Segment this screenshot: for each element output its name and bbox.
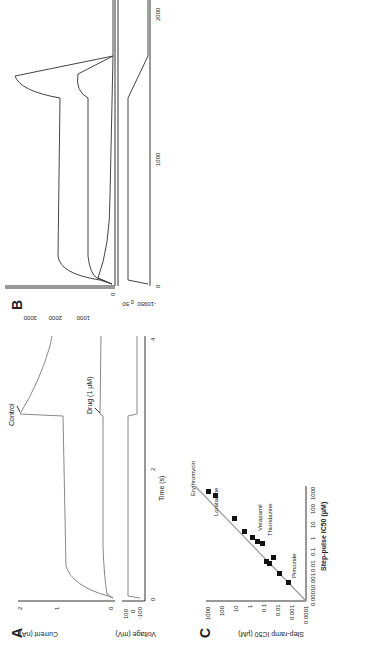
data-point [286,580,291,585]
annotation-loratadine: Loratadine [213,487,219,516]
annotation-control: Control [8,403,15,426]
panel-a-voltage-label: Voltage (mV) [116,630,156,638]
panel-a-xtick-0: 0 [150,597,156,601]
panel-c-ytick: 1 [247,604,253,608]
annotation-pimozide: Pimozide [291,553,297,578]
data-point [255,539,260,544]
data-point [250,535,255,540]
panel-b-trace-3 [98,56,113,284]
annotation-verapamil: Verapamil [257,504,263,531]
panel-b-xtick-0: 0 [155,284,161,288]
panel-b-tick-0: 0 [110,292,116,296]
panel-c-ytick: 0.001 [289,604,295,620]
panel-c-ytick: 10 [233,605,239,612]
panel-c-ylabel: Step-ramp IC50 (μM) [238,630,304,638]
panel-c-xtick: 1000 [310,486,316,500]
panel-c-ytick: 0.0001 [303,605,309,624]
panel-a-tick-1: 1 [54,606,60,610]
panel-a-voltage-trace [128,336,140,598]
arrow-control [17,406,20,412]
panel-c-ytick: 100 [219,605,225,616]
panel-b-tick-3000: 3000 [23,315,37,321]
panel-a-vtick-100: 100 [123,608,129,619]
annotation-thioridazine: Thioridazine [267,503,273,536]
data-point [242,529,247,534]
panel-b-xtick-1000: 1000 [155,152,161,166]
panel-a-xtick-4: 4 [150,337,156,341]
panel-a-xlabel: Time (s) [158,476,166,501]
panel-c-xtick: 0.01 [310,560,316,572]
panel-b-vtick-m100: -100 [143,301,156,307]
panel-a-control-trace [20,336,113,598]
panel-c-ytick: 0.01 [275,604,281,616]
panel-a-drug-trace [100,336,113,598]
data-point [260,541,265,546]
data-point [264,559,269,564]
figure: A Current (nA) 2 1 0 Control Drug (1 μM)… [0,0,380,646]
panel-c-ytick: 0.1 [261,603,267,612]
panel-c-xlabel: Step-pulse IC50 (μM) [320,502,328,571]
panel-b-trace-2 [77,56,113,284]
panel-b-vtick-0: 0 [130,299,134,305]
panel-b-trace-1 [15,0,113,284]
panel-b-xtick-2000: 2000 [155,7,161,21]
panel-c-ytick: 1000 [205,606,211,620]
panel-a-vtick-0: 0 [130,609,136,613]
panel-c-label: C [197,628,213,638]
panel-a-vtick-m100: -100 [137,606,143,619]
panel-c-xtick: 0.001 [310,572,316,588]
panel-b-voltage-trace [128,0,148,284]
panel-a-tick-2: 2 [17,606,23,610]
panel-c-xtick: 10 [310,521,316,528]
data-point [271,555,276,560]
data-point [277,571,282,576]
panel-b-tick-1000: 1000 [76,315,90,321]
panel-c-xtick: 0.1 [310,547,316,556]
data-point [232,516,237,521]
annotation-drug: Drug (1 μM) [86,377,94,414]
panel-a-current-label: Current (nA) [19,630,58,638]
panel-b-label: B [9,300,25,310]
panel-a-xtick-2: 2 [150,467,156,471]
panel-c-xtick: 100 [310,503,316,514]
panel-a: A Current (nA) 2 1 0 Control Drug (1 μM)… [8,336,166,638]
arrow-drug [95,408,100,413]
panel-c: C Step-ramp IC50 (μM) 1000 100 10 1 0.1 … [190,461,328,638]
annotation-erythromycin: Erythromycin [190,461,196,496]
panel-b-tick-2000: 2000 [48,315,62,321]
data-point [206,489,211,494]
panel-b: B 3000 2000 1000 0 50 0 -50 -100 [5,0,161,321]
panel-b-vtick-50: 50 [122,301,129,307]
panel-c-xtick: 1 [310,536,316,540]
panel-a-tick-0: 0 [108,606,114,610]
panel-c-xtick: 0.0001 [310,587,316,606]
